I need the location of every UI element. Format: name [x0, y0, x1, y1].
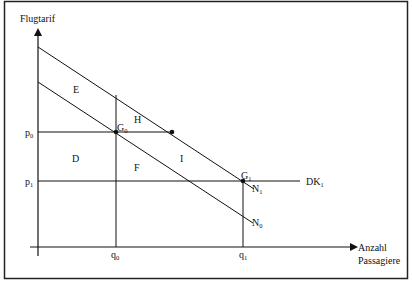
dk1-label: DK1	[306, 176, 324, 188]
g1-label: G1	[241, 170, 251, 182]
region-f: F	[134, 162, 140, 173]
p1-label: p1	[25, 176, 33, 188]
region-h: H	[134, 114, 141, 125]
n1-label: N1	[252, 183, 262, 195]
demand-curve-n0	[38, 82, 253, 223]
y-axis-label: Flugtarif	[20, 13, 56, 24]
q0-label: q0	[111, 249, 119, 261]
demand-curve-n1	[38, 47, 254, 189]
region-e: E	[73, 84, 79, 95]
frame	[5, 2, 408, 279]
n0-label: N0	[252, 217, 262, 229]
point-h-corner	[170, 130, 175, 135]
diagram-canvas: Flugtarif Anzahl Passagiere p0 p1 q0 q1 …	[0, 0, 412, 281]
p0-label: p0	[25, 127, 33, 139]
q1-label: q1	[239, 249, 247, 261]
x-axis-label-line1: Anzahl	[358, 242, 387, 253]
x-axis-label-line2: Passagiere	[358, 255, 401, 266]
region-i: I	[180, 153, 183, 164]
region-d: D	[72, 153, 79, 164]
g0-label: G0	[117, 122, 127, 134]
